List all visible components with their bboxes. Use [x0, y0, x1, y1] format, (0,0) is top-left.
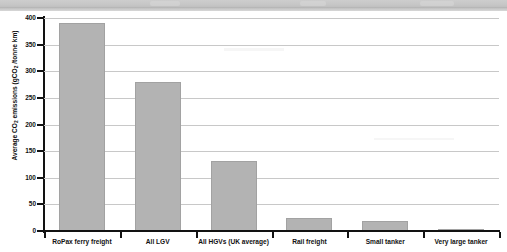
chart-figure: 050100150200250300350400 RoPax ferry fre… [0, 0, 507, 252]
gridline [44, 18, 499, 19]
y-axis-tick [37, 97, 44, 99]
scan-noise [374, 138, 454, 140]
x-axis-category-label: All HGVs (UK average) [196, 238, 272, 246]
y-axis-tick [37, 44, 44, 46]
y-axis-tick [37, 203, 44, 205]
bar [286, 218, 332, 231]
banner-seam [0, 7, 507, 8]
y-axis-tick [37, 177, 44, 179]
y-axis-tick [37, 150, 44, 152]
x-axis-category-label: All LGV [120, 238, 196, 246]
bar [135, 82, 181, 231]
scan-banner-strip [0, 0, 507, 11]
gridline [44, 125, 499, 126]
gridline [44, 204, 499, 205]
x-axis-category-label: Very large tanker [423, 238, 499, 246]
y-axis-tick-label: 100 [6, 175, 36, 181]
plot-area [44, 18, 499, 231]
y-axis-tick-label: 50 [6, 201, 36, 207]
gridline [44, 151, 499, 152]
bar [211, 161, 257, 231]
gridline [44, 71, 499, 72]
y-axis-tick [37, 17, 44, 19]
y-axis-tick-label: 0 [6, 228, 36, 234]
y-axis-tick [37, 70, 44, 72]
y-axis-tick [37, 124, 44, 126]
scan-noise [224, 48, 284, 51]
banner-blotch [150, 1, 180, 6]
gridline [44, 45, 499, 46]
gridline [44, 98, 499, 99]
banner-blotch [300, 1, 326, 6]
x-axis-category-label: RoPax ferry freight [44, 238, 120, 246]
y-axis-title: Average CO2 emissions (gCO2 /tonne km) [11, 21, 18, 171]
banner-blotch [420, 1, 454, 6]
gridline [44, 178, 499, 179]
bar [59, 23, 105, 231]
y-axis-tick-labels: 050100150200250300350400 [0, 0, 36, 252]
x-axis-tick [499, 232, 501, 238]
x-axis-category-label: Rail freight [272, 238, 348, 246]
x-axis-category-label: Small tanker [347, 238, 423, 246]
